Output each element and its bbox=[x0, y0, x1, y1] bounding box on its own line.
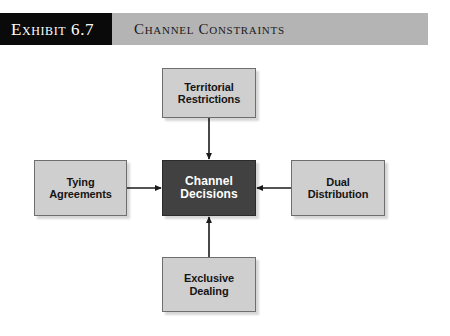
node-label-line2: Restrictions bbox=[178, 93, 240, 105]
exhibit-number-tag: Exhibit 6.7 bbox=[0, 13, 112, 45]
node-tying-agreements: Tying Agreements bbox=[34, 160, 127, 216]
node-label-line2: Decisions bbox=[180, 188, 238, 201]
node-label-line1: Dual bbox=[326, 176, 349, 188]
node-label-line2: Dealing bbox=[189, 285, 228, 297]
exhibit-title: Channel Constraints bbox=[134, 22, 285, 37]
node-label-line1: Tying bbox=[66, 176, 94, 188]
node-label-line1: Channel bbox=[185, 175, 233, 188]
channel-constraints-diagram: Territorial Restrictions Tying Agreement… bbox=[0, 45, 450, 336]
exhibit-figure: Exhibit 6.7 Channel Constraints Ter bbox=[0, 0, 450, 336]
node-label-line1: Territorial bbox=[184, 81, 233, 93]
node-channel-decisions: Channel Decisions bbox=[162, 160, 256, 216]
node-territorial-restrictions: Territorial Restrictions bbox=[162, 68, 256, 118]
exhibit-header: Exhibit 6.7 Channel Constraints bbox=[0, 13, 428, 45]
node-label-line2: Agreements bbox=[49, 188, 112, 200]
node-label-line1: Exclusive bbox=[184, 272, 234, 284]
node-exclusive-dealing: Exclusive Dealing bbox=[162, 257, 256, 312]
exhibit-number-label: Exhibit 6.7 bbox=[11, 21, 94, 38]
node-dual-distribution: Dual Distribution bbox=[291, 160, 385, 216]
exhibit-title-band: Channel Constraints bbox=[112, 13, 428, 45]
node-label-line2: Distribution bbox=[308, 188, 369, 200]
